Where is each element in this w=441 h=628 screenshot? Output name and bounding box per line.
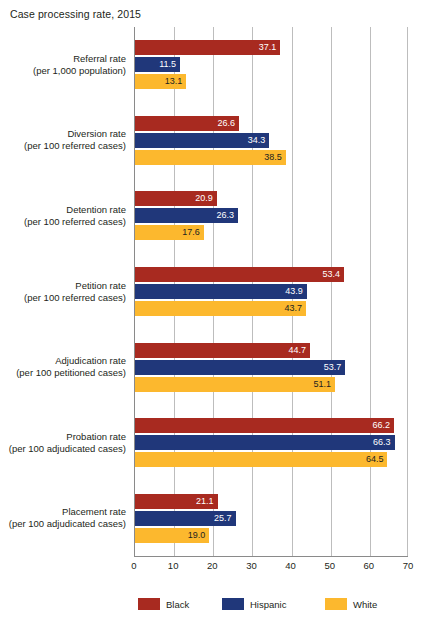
bar-value-label: 25.7 bbox=[214, 511, 232, 526]
bar-value-label: 53.7 bbox=[324, 360, 342, 375]
category-label-line2: (per 100 referred cases) bbox=[0, 292, 126, 304]
x-tick-label: 20 bbox=[207, 560, 218, 571]
category-label-line1: Referral rate bbox=[73, 53, 126, 64]
bar-white: 19.0 bbox=[135, 528, 209, 543]
category-label-line2: (per 100 petitioned cases) bbox=[0, 367, 126, 379]
category-label-line2: (per 100 referred cases) bbox=[0, 140, 126, 152]
bar-value-label: 43.7 bbox=[285, 301, 303, 316]
bar-hispanic: 11.5 bbox=[135, 57, 180, 72]
x-tick-label: 0 bbox=[131, 560, 136, 571]
bar-value-label: 64.5 bbox=[366, 452, 384, 467]
x-tick-label: 10 bbox=[168, 560, 179, 571]
bar-value-label: 37.1 bbox=[259, 40, 277, 55]
bar-value-label: 17.6 bbox=[182, 225, 200, 240]
bar-white: 17.6 bbox=[135, 225, 204, 240]
bar-hispanic: 26.3 bbox=[135, 208, 238, 223]
bar-hispanic: 53.7 bbox=[135, 360, 345, 375]
x-tick-label: 40 bbox=[285, 560, 296, 571]
bar-black: 21.1 bbox=[135, 494, 218, 509]
x-axis-line bbox=[134, 556, 408, 557]
bar-hispanic: 66.3 bbox=[135, 435, 395, 450]
x-tick-label: 30 bbox=[246, 560, 257, 571]
gridline bbox=[370, 27, 371, 556]
legend-label: White bbox=[353, 599, 377, 610]
category-label-line2: (per 1,000 population) bbox=[0, 65, 126, 77]
chart-legend: BlackHispanicWhite bbox=[0, 596, 441, 616]
bar-hispanic: 34.3 bbox=[135, 133, 269, 148]
legend-label: Black bbox=[166, 599, 189, 610]
bar-white: 43.7 bbox=[135, 301, 306, 316]
bar-black: 44.7 bbox=[135, 343, 310, 358]
case-processing-rate-chart: Case processing rate, 2015 0102030405060… bbox=[0, 0, 441, 628]
bar-black: 26.6 bbox=[135, 116, 239, 131]
x-tick-label: 60 bbox=[364, 560, 375, 571]
bar-value-label: 66.2 bbox=[373, 418, 391, 433]
bar-black: 37.1 bbox=[135, 40, 280, 55]
legend-swatch bbox=[222, 598, 244, 610]
bar-white: 64.5 bbox=[135, 452, 387, 467]
category-label-line1: Probation rate bbox=[66, 431, 126, 442]
bar-value-label: 51.1 bbox=[313, 377, 331, 392]
category-label-line1: Diversion rate bbox=[67, 128, 126, 139]
legend-swatch bbox=[325, 598, 347, 610]
category-label-line2: (per 100 adjudicated cases) bbox=[0, 518, 126, 530]
x-tick-label: 50 bbox=[324, 560, 335, 571]
bar-value-label: 43.9 bbox=[285, 284, 303, 299]
category-label: Detention rate(per 100 referred cases) bbox=[0, 204, 126, 228]
bar-value-label: 26.6 bbox=[218, 116, 236, 131]
gridline bbox=[331, 27, 332, 556]
x-tick-label: 70 bbox=[403, 560, 414, 571]
bar-value-label: 44.7 bbox=[288, 343, 306, 358]
bar-white: 13.1 bbox=[135, 74, 186, 89]
legend-item: Hispanic bbox=[222, 596, 286, 612]
category-label-line2: (per 100 adjudicated cases) bbox=[0, 443, 126, 455]
bar-value-label: 21.1 bbox=[196, 494, 214, 509]
legend-item: White bbox=[325, 596, 377, 612]
bar-black: 66.2 bbox=[135, 418, 394, 433]
legend-item: Black bbox=[138, 596, 189, 612]
legend-label: Hispanic bbox=[250, 599, 286, 610]
bar-value-label: 26.3 bbox=[216, 208, 234, 223]
bar-value-label: 34.3 bbox=[248, 133, 266, 148]
category-label-line1: Detention rate bbox=[66, 204, 126, 215]
legend-swatch bbox=[138, 598, 160, 610]
bar-value-label: 11.5 bbox=[159, 57, 176, 72]
category-label-line2: (per 100 referred cases) bbox=[0, 216, 126, 228]
category-label: Referral rate(per 1,000 population) bbox=[0, 53, 126, 77]
bar-value-label: 53.4 bbox=[322, 267, 340, 282]
category-label: Placement rate(per 100 adjudicated cases… bbox=[0, 506, 126, 530]
category-label: Diversion rate(per 100 referred cases) bbox=[0, 128, 126, 152]
category-label: Adjudication rate(per 100 petitioned cas… bbox=[0, 355, 126, 379]
bar-hispanic: 25.7 bbox=[135, 511, 236, 526]
bar-white: 51.1 bbox=[135, 377, 335, 392]
bar-value-label: 38.5 bbox=[264, 150, 282, 165]
chart-title: Case processing rate, 2015 bbox=[10, 8, 141, 20]
category-label: Probation rate(per 100 adjudicated cases… bbox=[0, 431, 126, 455]
bar-black: 20.9 bbox=[135, 191, 217, 206]
category-label-line1: Petition rate bbox=[75, 280, 126, 291]
category-label-line1: Placement rate bbox=[62, 506, 126, 517]
bar-black: 53.4 bbox=[135, 267, 344, 282]
category-label-line1: Adjudication rate bbox=[55, 355, 126, 366]
bar-hispanic: 43.9 bbox=[135, 284, 307, 299]
category-label: Petition rate(per 100 referred cases) bbox=[0, 280, 126, 304]
bar-value-label: 20.9 bbox=[195, 191, 213, 206]
bar-white: 38.5 bbox=[135, 150, 286, 165]
bar-value-label: 19.0 bbox=[188, 528, 206, 543]
bar-value-label: 66.3 bbox=[373, 435, 391, 450]
bar-value-label: 13.1 bbox=[165, 74, 183, 89]
